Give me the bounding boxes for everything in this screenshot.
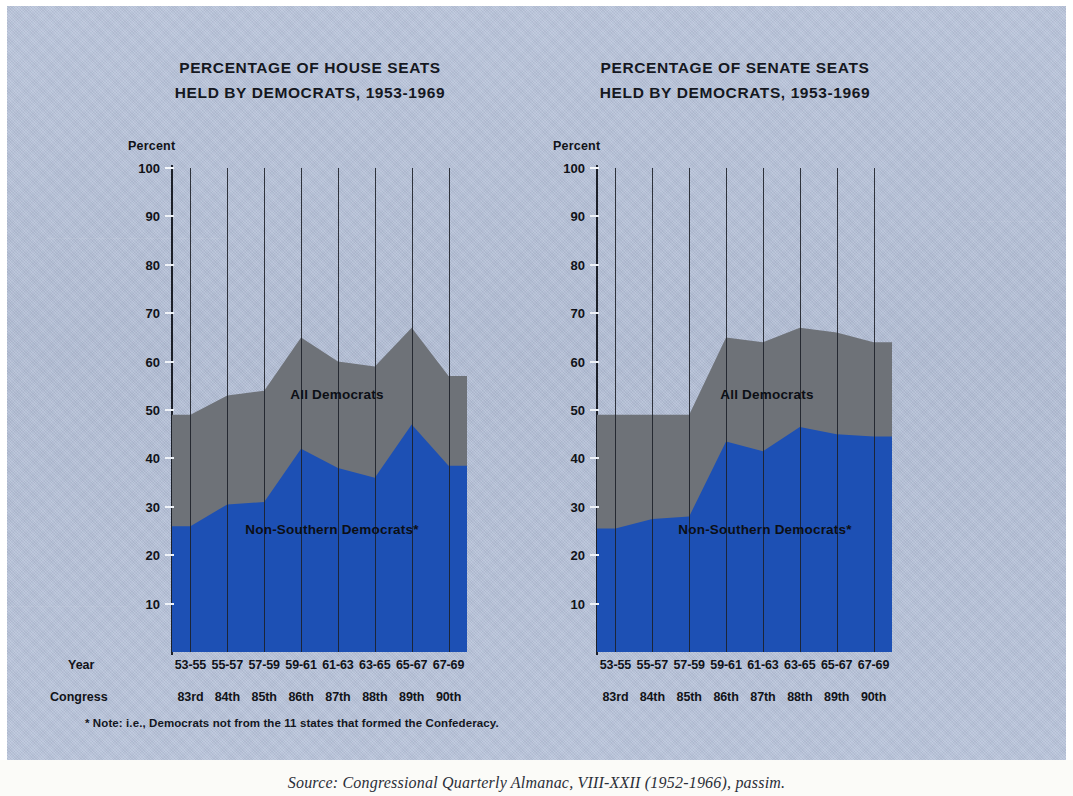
y-axis-tick-label: 30	[124, 499, 160, 514]
y-axis-tick-mark	[590, 264, 599, 266]
gridline	[338, 168, 339, 652]
y-axis-tick-mark	[165, 361, 174, 363]
x-axis-year-label: 67-69	[858, 658, 889, 672]
x-axis-year-label: 67-69	[433, 658, 464, 672]
x-axis-congress-label: 83rd	[602, 690, 628, 704]
y-axis-tick-mark	[165, 215, 174, 217]
gridline	[652, 168, 653, 652]
y-axis-tick-label: 30	[549, 499, 585, 514]
area-series-senate	[597, 168, 892, 652]
y-axis-tick-label: 70	[124, 306, 160, 321]
gridline	[301, 168, 302, 652]
gridline	[615, 168, 616, 652]
x-axis-year-label: 57-59	[248, 658, 279, 672]
y-axis-tick-mark	[165, 554, 174, 556]
x-axis-year-label: 65-67	[396, 658, 427, 672]
y-axis-tick-mark	[590, 603, 599, 605]
x-axis-congress-label: 83rd	[177, 690, 203, 704]
y-axis-title-house: Percent	[128, 139, 175, 153]
y-axis-tick-mark	[590, 457, 599, 459]
chart-title-senate: PERCENTAGE OF SENATE SEATS	[485, 59, 985, 77]
chart-panel-senate: PERCENTAGE OF SENATE SEATS HELD BY DEMOC…	[485, 0, 985, 754]
x-axis-congress-label: 84th	[215, 690, 240, 704]
gridline	[264, 168, 265, 652]
y-axis-tick-label: 60	[124, 354, 160, 369]
series-label-non-southern-senate: Non-Southern Democrats*	[678, 522, 851, 537]
figure-page: PERCENTAGE OF HOUSE SEATS HELD BY DEMOCR…	[0, 0, 1073, 796]
series-label-all-democrats-house: All Democrats	[290, 387, 383, 402]
x-axis-year-label: 61-63	[322, 658, 353, 672]
y-axis-tick-label: 50	[549, 403, 585, 418]
y-axis-tick-mark	[165, 312, 174, 314]
y-axis-tick-label: 20	[124, 548, 160, 563]
y-axis-tick-mark	[590, 409, 599, 411]
x-axis-year-label: 63-65	[784, 658, 815, 672]
y-axis-tick-label: 100	[124, 161, 160, 176]
x-axis-year-label: 53-55	[600, 658, 631, 672]
x-axis-year-label: 61-63	[747, 658, 778, 672]
x-axis-year-label: 65-67	[821, 658, 852, 672]
x-axis-congress-label: 88th	[787, 690, 812, 704]
x-axis-congress-label: 84th	[640, 690, 665, 704]
y-axis-tick-mark	[590, 361, 599, 363]
gridline	[726, 168, 727, 652]
y-axis-tick-label: 50	[124, 403, 160, 418]
y-axis-tick-mark	[165, 167, 174, 169]
x-axis-congress-label: 86th	[713, 690, 738, 704]
plot-area-house: All Democrats Non-Southern Democrats*	[172, 168, 467, 652]
gridline	[800, 168, 801, 652]
x-axis-congress-label: 89th	[824, 690, 849, 704]
x-axis-congress-label: 89th	[399, 690, 424, 704]
gridline	[837, 168, 838, 652]
x-axis-year-label: 53-55	[175, 658, 206, 672]
y-axis-tick-mark	[165, 506, 174, 508]
source-citation: Source: Congressional Quarterly Almanac,…	[0, 774, 1073, 792]
row-label-year-house: Year	[68, 658, 94, 672]
y-axis-tick-label: 90	[124, 209, 160, 224]
x-axis-congress-label: 88th	[362, 690, 387, 704]
series-label-non-southern-house: Non-Southern Democrats*	[245, 522, 418, 537]
x-axis-year-label: 55-57	[637, 658, 668, 672]
y-axis-tick-mark	[590, 506, 599, 508]
x-axis-congress-label: 87th	[325, 690, 350, 704]
gridline	[227, 168, 228, 652]
x-axis-year-label: 55-57	[212, 658, 243, 672]
x-axis-year-label: 59-61	[285, 658, 316, 672]
y-axis-tick-mark	[590, 167, 599, 169]
x-axis-congress-label: 90th	[861, 690, 886, 704]
y-axis-tick-label: 10	[124, 596, 160, 611]
y-axis-tick-label: 90	[549, 209, 585, 224]
x-axis-year-label: 57-59	[673, 658, 704, 672]
y-axis-tick-label: 10	[549, 596, 585, 611]
x-axis-year-label: 59-61	[710, 658, 741, 672]
y-axis-tick-label: 70	[549, 306, 585, 321]
y-axis-tick-mark	[165, 264, 174, 266]
gridline	[689, 168, 690, 652]
x-axis-year-label: 63-65	[359, 658, 390, 672]
x-axis-congress-label: 85th	[677, 690, 702, 704]
y-axis-tick-mark	[590, 312, 599, 314]
y-axis-tick-label: 20	[549, 548, 585, 563]
gridline	[190, 168, 191, 652]
gridline	[763, 168, 764, 652]
y-axis-tick-label: 60	[549, 354, 585, 369]
area-series-house	[172, 168, 467, 652]
x-axis-congress-label: 86th	[288, 690, 313, 704]
series-label-all-democrats-senate: All Democrats	[720, 387, 813, 402]
gridline	[412, 168, 413, 652]
y-axis-tick-label: 40	[549, 451, 585, 466]
y-axis-tick-mark	[165, 603, 174, 605]
x-axis-congress-label: 87th	[750, 690, 775, 704]
chart-subtitle-senate: HELD BY DEMOCRATS, 1953-1969	[485, 84, 985, 102]
plot-area-senate: All Democrats Non-Southern Democrats*	[597, 168, 892, 652]
y-axis-tick-label: 80	[124, 257, 160, 272]
gridline	[449, 168, 450, 652]
gridline	[874, 168, 875, 652]
x-axis-congress-label: 90th	[436, 690, 461, 704]
y-axis-tick-mark	[590, 554, 599, 556]
y-axis-title-senate: Percent	[553, 139, 600, 153]
row-label-congress-house: Congress	[50, 690, 108, 704]
y-axis-tick-label: 40	[124, 451, 160, 466]
footnote: * Note: i.e., Democrats not from the 11 …	[85, 717, 499, 729]
x-axis-congress-label: 85th	[252, 690, 277, 704]
